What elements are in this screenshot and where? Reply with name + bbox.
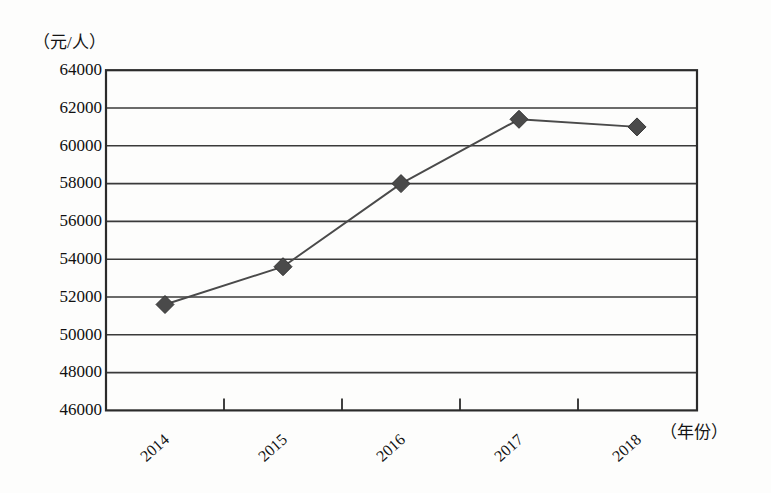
data-point-2016 — [392, 175, 410, 193]
y-tick-label-64000: 64000 — [28, 60, 102, 80]
series-line — [165, 119, 637, 304]
line-chart-canvas — [0, 0, 771, 493]
y-tick-label-58000: 58000 — [28, 173, 102, 193]
x-axis-unit-label: （年份） — [660, 418, 728, 443]
y-tick-label-52000: 52000 — [28, 287, 102, 307]
y-tick-label-62000: 62000 — [28, 98, 102, 118]
data-point-2014 — [156, 296, 174, 314]
y-tick-label-56000: 56000 — [28, 211, 102, 231]
y-tick-label-54000: 54000 — [28, 249, 102, 269]
plot-frame — [106, 70, 697, 410]
data-point-2015 — [274, 258, 292, 276]
y-tick-label-48000: 48000 — [28, 362, 102, 382]
y-tick-label-46000: 46000 — [28, 400, 102, 420]
data-point-2017 — [510, 110, 528, 128]
data-point-2018 — [628, 118, 646, 136]
gridlines — [106, 108, 697, 373]
y-tick-label-60000: 60000 — [28, 136, 102, 156]
chart-page: （元/人） — [0, 0, 771, 493]
x-axis-ticks — [224, 398, 578, 410]
y-tick-label-50000: 50000 — [28, 325, 102, 345]
